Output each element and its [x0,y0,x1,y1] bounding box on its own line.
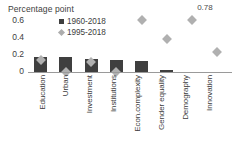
y-axis-tick-2: 0.2 [2,50,24,59]
x-axis-label-econ-complexity: Econ.complexity [133,75,142,132]
x-axis-baseline [28,72,232,73]
plot-area: 0.78 [28,20,230,72]
x-axis-label-urban: Urban [61,75,70,96]
y-axis-tick-0: 0.6 [2,16,24,25]
marker-econ-complexity [137,15,147,25]
marker-innovation [212,47,222,57]
x-axis-label-investment: Investment [85,75,94,113]
x-axis-label-institutions: Institutions [109,75,118,112]
x-axis-label-demography: Demography [181,75,190,120]
percentage-point-chart: Percentage point 0.6 0.4 0.2 0 1960-2018… [0,0,235,151]
x-axis-label-gender-equality: Gender equality [157,75,166,130]
x-axis-label-education: Education [38,75,47,110]
marker-demography [187,15,197,25]
y-axis-tick-1: 0.4 [2,33,24,42]
marker-gender-equality [162,34,172,44]
x-axis-label-innovation: Innovation [205,75,214,111]
bar-econ-complexity [135,61,148,72]
y-axis-tick-3: 0 [2,67,24,76]
chart-title: Percentage point [8,4,74,14]
data-label-demography: 0.78 [197,3,213,12]
